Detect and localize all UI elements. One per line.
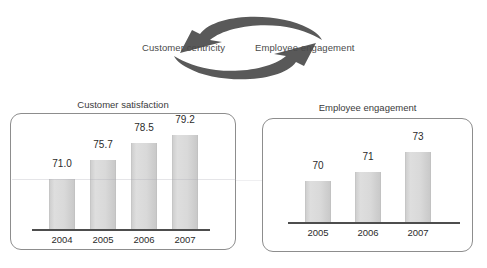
scan-artifact-line (12, 179, 236, 180)
tick-label-2006: 2006 (122, 234, 166, 245)
tick-label-2007: 2007 (163, 234, 207, 245)
bar-emp-2005[interactable] (305, 181, 331, 222)
bar-2005[interactable] (90, 160, 116, 229)
bar-group-emp-2006[interactable]: 71 2006 (346, 128, 390, 248)
slide-canvas: Customer centricity Employee engagement … (0, 0, 487, 268)
tick-label-2004: 2004 (40, 234, 84, 245)
tick-label-emp-2005: 2005 (296, 227, 340, 238)
bar-value-2007: 79.2 (163, 114, 207, 125)
cycle-label-employee-engagement: Employee engagement (255, 42, 355, 53)
bar-2007[interactable] (172, 135, 198, 229)
bar-value-emp-2007: 73 (396, 131, 440, 142)
cycle-label-customer-centricity: Customer centricity (142, 42, 225, 53)
bar-emp-2007[interactable] (405, 152, 431, 222)
bar-group-emp-2007[interactable]: 73 2007 (396, 128, 440, 248)
bar-chart-employee-engagement: 70 2005 71 2006 73 2007 (288, 128, 460, 248)
bar-group-2006[interactable]: 78.5 2006 (122, 120, 166, 245)
bar-group-2007[interactable]: 79.2 2007 (163, 120, 207, 245)
bar-emp-2006[interactable] (355, 172, 381, 222)
bar-2006[interactable] (131, 143, 157, 229)
bar-value-emp-2005: 70 (296, 160, 340, 171)
chart-title-customer-satisfaction: Customer satisfaction (10, 99, 236, 110)
bar-2004[interactable] (49, 179, 75, 229)
bar-value-2005: 75.7 (81, 139, 125, 150)
chart-title-employee-engagement: Employee engagement (262, 102, 473, 113)
tick-label-2005: 2005 (81, 234, 125, 245)
tick-label-emp-2006: 2006 (346, 227, 390, 238)
bar-value-2004: 71.0 (40, 158, 84, 169)
bar-group-emp-2005[interactable]: 70 2005 (296, 128, 340, 248)
bar-value-2006: 78.5 (122, 122, 166, 133)
bar-group-2004[interactable]: 71.0 2004 (40, 120, 84, 245)
bar-value-emp-2006: 71 (346, 151, 390, 162)
bar-group-2005[interactable]: 75.7 2005 (81, 120, 125, 245)
tick-label-emp-2007: 2007 (396, 227, 440, 238)
bar-chart-customer-satisfaction: 71.0 2004 75.7 2005 78.5 2006 79.2 2007 (32, 120, 210, 245)
virtuous-cycle-diagram: Customer centricity Employee engagement (0, 0, 487, 96)
